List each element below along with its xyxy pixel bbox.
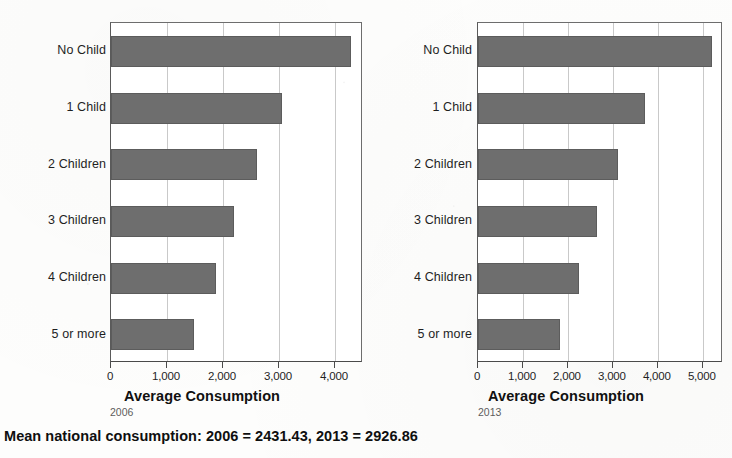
x-axis-tick	[334, 362, 335, 368]
panel-year-2013: 2013	[478, 406, 501, 418]
bar-chart-figure: No Child1 Child2 Children3 Children4 Chi…	[0, 0, 732, 458]
gridline	[703, 23, 704, 361]
category-label: 4 Children	[414, 267, 472, 287]
x-axis-tick-label: 1,000	[152, 370, 180, 382]
gridline	[167, 23, 168, 361]
x-axis-tick	[110, 362, 111, 368]
x-axis-tick-label: 0	[474, 370, 480, 382]
x-axis-title-2006: Average Consumption	[124, 388, 280, 404]
x-axis-tick-label: 3,000	[264, 370, 292, 382]
x-axis-tick	[612, 362, 613, 368]
bar-3-children	[111, 206, 234, 237]
category-label: 1 Child	[432, 97, 472, 117]
category-label: No Child	[423, 40, 472, 60]
chart-panel-2013: No Child1 Child2 Children3 Children4 Chi…	[390, 0, 732, 420]
bar-no-child	[111, 36, 351, 67]
bar-5-or-more	[478, 319, 560, 350]
gridline	[658, 23, 659, 361]
category-label: 5 or more	[52, 324, 106, 344]
bar-4-children	[111, 263, 216, 294]
x-axis-tick-label: 4,000	[320, 370, 348, 382]
bar-1-child	[111, 93, 282, 124]
x-axis-title-2013: Average Consumption	[488, 388, 644, 404]
gridline	[568, 23, 569, 361]
x-axis-tick	[166, 362, 167, 368]
bar-5-or-more	[111, 319, 194, 350]
x-axis-tick	[477, 362, 478, 368]
bar-3-children	[478, 206, 597, 237]
plot-area-2006	[110, 22, 362, 362]
gridline	[613, 23, 614, 361]
bar-2-children	[111, 149, 257, 180]
bar-1-child	[478, 93, 645, 124]
x-axis-tick-label: 5,000	[688, 370, 716, 382]
x-axis-tick	[702, 362, 703, 368]
panel-year-2006: 2006	[110, 406, 133, 418]
x-axis-tick-label: 0	[107, 370, 113, 382]
x-axis-tick	[222, 362, 223, 368]
figure-caption: Mean national consumption: 2006 = 2431.4…	[4, 428, 418, 444]
x-axis-tick-label: 2,000	[208, 370, 236, 382]
category-label: 3 Children	[414, 210, 472, 230]
category-label: 5 or more	[418, 324, 472, 344]
x-axis-tick	[657, 362, 658, 368]
x-axis-tick	[567, 362, 568, 368]
category-label: 2 Children	[48, 154, 106, 174]
gridline	[223, 23, 224, 361]
chart-panel-2006: No Child1 Child2 Children3 Children4 Chi…	[0, 0, 390, 420]
x-axis-tick-label: 3,000	[598, 370, 626, 382]
x-axis-tick-label: 1,000	[508, 370, 536, 382]
category-axis-labels-2013: No Child1 Child2 Children3 Children4 Chi…	[390, 22, 472, 362]
gridline	[523, 23, 524, 361]
category-label: 1 Child	[66, 97, 106, 117]
category-label: 2 Children	[414, 154, 472, 174]
category-label: 3 Children	[48, 210, 106, 230]
x-axis-tick-label: 2,000	[553, 370, 581, 382]
category-axis-labels-2006: No Child1 Child2 Children3 Children4 Chi…	[0, 22, 106, 362]
gridline	[335, 23, 336, 361]
x-axis-tick-label: 4,000	[643, 370, 671, 382]
plot-area-2013	[477, 22, 722, 362]
x-axis-tick	[278, 362, 279, 368]
gridline	[279, 23, 280, 361]
category-label: 4 Children	[48, 267, 106, 287]
category-label: No Child	[57, 40, 106, 60]
bar-4-children	[478, 263, 579, 294]
bar-2-children	[478, 149, 618, 180]
x-axis-tick	[522, 362, 523, 368]
bar-no-child	[478, 36, 712, 67]
